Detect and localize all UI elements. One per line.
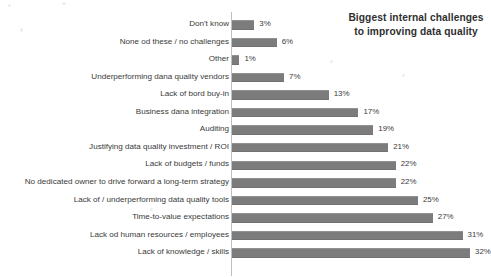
bar	[232, 143, 388, 152]
bar	[232, 125, 373, 134]
category-label: Underperforming dana quality vendors	[91, 71, 229, 82]
bar-value-label: 6%	[282, 36, 293, 47]
category-label: Lack od human resources / employees	[90, 229, 229, 240]
bar	[232, 248, 470, 257]
bar	[232, 178, 396, 187]
bar-value-label: 13%	[334, 88, 350, 99]
bar-track	[232, 55, 239, 64]
bar-track	[232, 73, 284, 82]
bar-value-label: 22%	[401, 176, 417, 187]
bar-track	[232, 143, 388, 152]
category-label: No dedicated owner to drive forward a lo…	[25, 176, 229, 187]
bar	[232, 231, 463, 240]
bar-track	[232, 125, 373, 134]
category-label: Lack of knowledge / skills	[138, 246, 229, 257]
category-label: Justifying data quality investment / ROI	[89, 141, 229, 152]
bar	[232, 161, 396, 170]
bar-track	[232, 161, 396, 170]
bar	[232, 73, 284, 82]
bar-track	[232, 213, 433, 222]
bar-value-label: 32%	[475, 246, 491, 257]
bar-row: Underperforming dana quality vendors7%	[0, 69, 488, 87]
bar-row: Lack of bord buy-in13%	[0, 86, 488, 104]
bar-track	[232, 196, 418, 205]
bar-track	[232, 178, 396, 187]
bar-row: Business dana integration17%	[0, 104, 488, 122]
category-label: None od these / no challenges	[120, 36, 229, 47]
plot-area: Don't know3%None od these / no challenge…	[0, 12, 488, 276]
bar-row: Justifying data quality investment / ROI…	[0, 139, 488, 157]
category-label: Lack of / underperforming data quality t…	[74, 194, 229, 205]
bar-value-label: 21%	[393, 141, 409, 152]
bar-row: None od these / no challenges6%	[0, 34, 488, 52]
category-label: Other	[209, 53, 229, 64]
bar-row: Auditing19%	[0, 121, 488, 139]
bar	[232, 108, 358, 117]
bar-value-label: 31%	[468, 229, 484, 240]
bar-track	[232, 38, 277, 47]
scan-speck	[8, 4, 11, 7]
category-label: Lack of budgets / funds	[145, 158, 229, 169]
bar-row: Lack of knowledge / skills32%	[0, 244, 488, 262]
bar	[232, 90, 329, 99]
category-label: Time-to-value expectations	[132, 211, 229, 222]
bar-track	[232, 248, 470, 257]
bar-row: No dedicated owner to drive forward a lo…	[0, 174, 488, 192]
bar-value-label: 27%	[438, 211, 454, 222]
category-label: Business dana integration	[136, 106, 229, 117]
bar-track	[232, 90, 329, 99]
bar-value-label: 17%	[363, 106, 379, 117]
category-label: Lack of bord buy-in	[160, 88, 229, 99]
bar-value-label: 7%	[289, 71, 300, 82]
bar-row: Lack of / underperforming data quality t…	[0, 192, 488, 210]
bar-row: Don't know3%	[0, 16, 488, 34]
bar-value-label: 3%	[259, 18, 270, 29]
bar-row: Lack od human resources / employees31%	[0, 227, 488, 245]
category-label: Auditing	[200, 123, 229, 134]
category-label: Don't know	[189, 18, 229, 29]
bar	[232, 213, 433, 222]
bar	[232, 55, 239, 64]
bar-value-label: 25%	[423, 194, 439, 205]
bar-value-label: 22%	[401, 158, 417, 169]
bar-value-label: 1%	[244, 53, 255, 64]
bar-row: Lack of budgets / funds22%	[0, 156, 488, 174]
bar-track	[232, 231, 463, 240]
bar	[232, 196, 418, 205]
bar-row: Time-to-value expectations27%	[0, 209, 488, 227]
bar-value-label: 19%	[378, 123, 394, 134]
scan-speck	[62, 2, 66, 5]
bar-row: Other1%	[0, 51, 488, 69]
bar	[232, 38, 277, 47]
bar-track	[232, 108, 358, 117]
bar-track	[232, 20, 254, 29]
bar	[232, 20, 254, 29]
